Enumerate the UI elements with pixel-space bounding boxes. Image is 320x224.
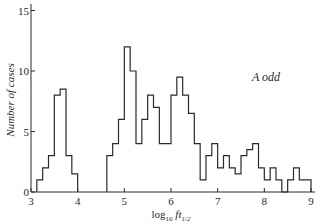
y-tick-label: 10 <box>18 65 30 77</box>
y-tick-label: 5 <box>24 126 30 138</box>
y-axis: 051015 <box>18 4 35 198</box>
histogram-chart: 051015 3456789 Number of cases log10 ft1… <box>0 0 320 224</box>
histogram-step-line <box>37 47 311 192</box>
x-tick-label: 6 <box>168 195 174 207</box>
x-tick-label: 9 <box>308 195 314 207</box>
x-tick-label: 5 <box>122 195 128 207</box>
x-tick-label: 8 <box>262 195 268 207</box>
x-axis-title: log10 ft1/2 <box>152 208 191 223</box>
y-tick-label: 15 <box>18 5 30 17</box>
x-title-sub-half: 1/2 <box>181 215 190 223</box>
annotation-a-odd: A odd <box>251 70 281 84</box>
x-tick-label: 7 <box>215 195 221 207</box>
y-axis-title: Number of cases <box>4 63 16 137</box>
x-tick-label: 3 <box>28 195 34 207</box>
x-title-log: log <box>152 208 167 220</box>
x-tick-label: 4 <box>75 195 81 207</box>
x-axis: 3456789 <box>28 188 315 207</box>
